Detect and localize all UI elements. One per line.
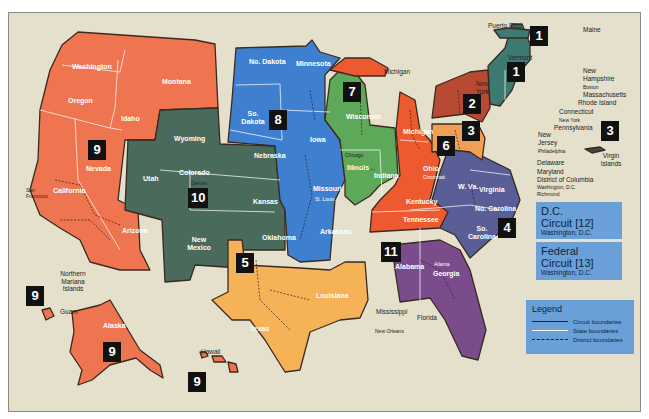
state-label-so-dakota: So. Dakota xyxy=(240,110,266,126)
state-label-alabama: Alabama xyxy=(395,263,424,271)
state-label-tennessee: Tennessee xyxy=(403,216,439,224)
solid-line-icon xyxy=(532,321,568,322)
state-label-alaska: Alaska xyxy=(103,322,126,330)
label-vermont: Vermont xyxy=(508,54,532,62)
label-st-louis: St. Louis xyxy=(315,196,334,204)
circuit-badge-5: 5 xyxy=(236,253,254,273)
label-san-francisco: San Francisco xyxy=(26,187,48,199)
label-hawaii: Hawaii xyxy=(201,348,221,356)
legend-item-circuit: Circuit boundaries xyxy=(532,317,628,326)
label-district-of-columbia: District of Columbia xyxy=(537,176,593,184)
circuit-badge-1: 1 xyxy=(507,62,525,82)
circuit-badge-10: 10 xyxy=(188,188,208,208)
state-label-michigan: Michigan xyxy=(403,128,433,136)
state-label-wyoming: Wyoming xyxy=(174,135,205,143)
label-rhode-island: Rhode Island xyxy=(578,99,616,107)
state-label-new-mexico: New Mexico xyxy=(184,236,214,252)
label-northern-mariana-islands: Northern Mariana Islands xyxy=(57,270,89,293)
circuit-badge-8: 8 xyxy=(269,110,287,130)
label-delaware: Delaware xyxy=(537,159,564,167)
circuit-badge-3: 3 xyxy=(462,121,480,141)
circuit-11-region xyxy=(392,240,486,360)
state-label-idaho: Idaho xyxy=(121,115,140,123)
state-label-virginia: Virginia xyxy=(479,186,505,194)
label-connecticut: Connecticut xyxy=(559,108,593,116)
label-chicago: Chicago xyxy=(345,152,363,160)
label-denver: Denver xyxy=(191,180,207,188)
label-mississippi: Mississippi xyxy=(376,308,407,316)
federal-circuit-title-2: Circuit [13] xyxy=(541,257,617,269)
circuit-badge-4: 4 xyxy=(498,218,516,238)
label-new-jersey: New Jersey xyxy=(538,131,562,146)
puerto-rico-shape xyxy=(494,28,530,38)
label-richmond: Richmond xyxy=(537,191,560,199)
federal-circuit-title-1: Federal xyxy=(541,245,617,257)
state-label-washington: Washington xyxy=(72,63,112,71)
white-line-icon xyxy=(532,330,568,331)
state-label-indiana: Indiana xyxy=(374,172,399,180)
dc-circuit-box: D.C. Circuit [12] Washington, D.C. xyxy=(536,202,622,239)
circuit-badge-9: 9 xyxy=(88,140,106,160)
state-label-illinois: Illinois xyxy=(347,164,369,172)
legend-title: Legend xyxy=(532,304,628,315)
circuit-badge-7: 7 xyxy=(343,82,361,102)
label-atlanta: Atlanta xyxy=(434,261,450,269)
state-label-colorado: Colorado xyxy=(179,169,210,177)
label-massachusetts: Massachusetts xyxy=(583,91,626,99)
guam-shape xyxy=(42,308,54,320)
state-label-montana: Montana xyxy=(162,78,191,86)
state-label-kentucky: Kentucky xyxy=(406,198,438,206)
circuit-badge-9-hawaii: 9 xyxy=(188,372,206,392)
state-label-minnesota: Minnesota xyxy=(296,60,331,68)
state-label-oklahoma: Oklahoma xyxy=(262,234,296,242)
federal-circuit-box: Federal Circuit [13] Washington, D.C. xyxy=(536,242,622,280)
state-label-arizona: Arizona xyxy=(122,227,148,235)
state-label-texas: Texas xyxy=(250,325,269,333)
state-label-california: California xyxy=(53,187,85,195)
state-label-no-carolina: No. Carolina xyxy=(475,205,516,213)
state-label-so-carolina: So. Carolina xyxy=(466,225,498,241)
legend-item-state: State boundaries xyxy=(532,326,628,335)
state-label-ohio: Ohio xyxy=(423,165,439,173)
label-new-york-state: New York xyxy=(476,80,496,95)
state-label-nebraska: Nebraska xyxy=(254,152,286,160)
label-puerto-rico: Puerto Rico xyxy=(488,22,522,30)
circuit-badge-2: 2 xyxy=(463,94,481,114)
circuit-2-region xyxy=(432,70,490,122)
label-new-hampshire: New Hampshire xyxy=(583,67,617,82)
dc-circuit-location: Washington, D.C. xyxy=(541,229,617,237)
label-maine: Maine xyxy=(583,26,601,34)
label-maryland: Maryland xyxy=(537,168,564,176)
state-label-iowa: Iowa xyxy=(310,136,326,144)
state-label-nevada: Nevada xyxy=(86,165,111,173)
state-label-georgia: Georgia xyxy=(433,270,459,278)
label-guam: Guam xyxy=(60,308,78,316)
circuit-badge-9-alaska: 9 xyxy=(103,342,121,362)
state-label-kansas: Kansas xyxy=(253,198,278,206)
state-label-arkansas: Arkansas xyxy=(320,228,352,236)
label-florida: Florida xyxy=(417,314,437,322)
circuit-badge-3-virgin-islands: 3 xyxy=(601,121,619,141)
dashed-line-icon xyxy=(532,339,568,340)
state-label-w-va: W. Va. xyxy=(458,183,478,191)
state-label-no-dakota: No. Dakota xyxy=(249,58,286,66)
legend-item-district: District boundaries xyxy=(532,335,628,344)
label-philadelphia: Philadelphia xyxy=(538,148,565,156)
circuit-map: 1 1 2 3 3 4 5 6 7 8 9 9 9 9 10 11 Washin… xyxy=(0,0,649,419)
state-label-oregon: Oregon xyxy=(68,97,93,105)
label-virgin-islands: Virgin Islands xyxy=(599,152,623,167)
label-cincinnati: Cincinnati xyxy=(423,174,445,182)
dc-circuit-title-2: Circuit [12] xyxy=(541,217,617,229)
circuit-badge-9-pacific-islands: 9 xyxy=(26,286,44,306)
circuit-badge-1-puerto-rico: 1 xyxy=(530,26,548,46)
label-michigan-upper: Michigan xyxy=(384,68,410,76)
circuit-badge-6: 6 xyxy=(437,136,455,156)
label-new-orleans: New Orleans xyxy=(375,328,404,336)
federal-circuit-location: Washington, D.C. xyxy=(541,269,617,277)
legend: Legend Circuit boundaries State boundari… xyxy=(526,300,634,354)
state-label-missouri: Missouri xyxy=(313,185,342,193)
state-label-utah: Utah xyxy=(143,175,159,183)
circuit-4-region xyxy=(432,150,520,258)
state-label-wisconsin: Wisconsin xyxy=(346,113,381,121)
dc-circuit-title-1: D.C. xyxy=(541,205,617,217)
